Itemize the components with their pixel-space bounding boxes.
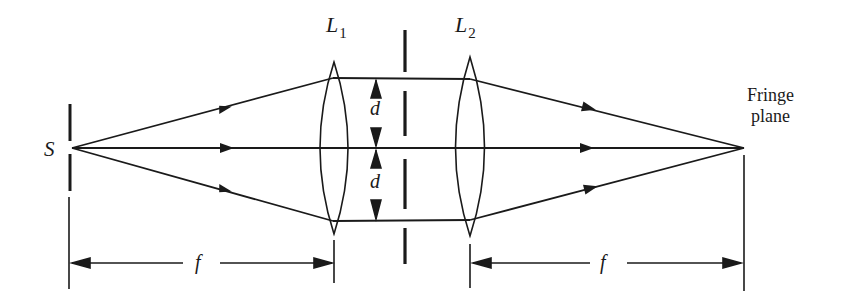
fringe-plane-label-line1: Fringe (747, 85, 794, 106)
lens2-label-main: L (455, 12, 467, 37)
focal-dimension-left (72, 258, 332, 268)
fringe-plane-label-line2: plane (747, 106, 794, 127)
converging-rays (470, 79, 744, 220)
focal-dimension-right (473, 258, 741, 268)
incident-rays (72, 78, 744, 221)
lens2-label: L2 (455, 12, 476, 38)
lens1-label: L1 (326, 12, 347, 38)
focal-length-label-left: f (195, 251, 201, 274)
fringe-plane-label: Fringe plane (747, 85, 794, 127)
lens-l2 (456, 57, 485, 236)
lens1-label-main: L (326, 12, 338, 37)
focal-length-label-right: f (600, 251, 606, 274)
optical-diagram (0, 0, 849, 301)
separation-label-bottom: d (370, 170, 380, 193)
lens1-label-sub: 1 (339, 25, 347, 41)
lens2-label-sub: 2 (468, 25, 476, 41)
source-label: S (44, 137, 55, 162)
collimated-rays (333, 78, 470, 221)
separation-label-top: d (370, 97, 380, 120)
